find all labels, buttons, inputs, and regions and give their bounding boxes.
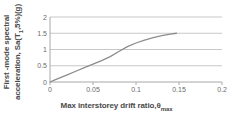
y-axis-title-subscript: 1 — [18, 30, 24, 33]
y-axis-title-line-2-main: acceleration, Sa(T — [13, 33, 22, 100]
y-axis-title: First -mode spectral acceleration, Sa(T1… — [0, 2, 28, 102]
x-axis-tick-label: 0.1 — [131, 85, 141, 94]
y-axis-tick-label: 0.5 — [37, 61, 47, 70]
y-axis-title-line-2: acceleration, Sa(T1,5%)(g) — [12, 4, 27, 100]
y-axis-tick-label: 1 — [43, 45, 47, 54]
y-axis-title-line-1: First -mode spectral — [1, 15, 12, 89]
chart-figure: First -mode spectral acceleration, Sa(T1… — [0, 0, 233, 118]
x-axis-tick-labels: 00.050.10.150.2 — [50, 85, 222, 96]
y-axis-tick-label: 0 — [43, 78, 47, 87]
y-axis-tick-label: 2 — [43, 13, 47, 22]
y-axis-tick-label: 1.5 — [37, 29, 47, 38]
x-axis-title-subscript: max — [161, 106, 173, 112]
gridlines — [50, 17, 222, 66]
x-axis-tick-label: 0.2 — [217, 85, 227, 94]
x-axis-tick-label: 0.05 — [86, 85, 100, 94]
x-axis-tick-label: 0 — [48, 85, 52, 94]
x-axis-title-main: Max interstorey drift ratio,θ — [61, 101, 161, 110]
data-series-line — [50, 33, 176, 82]
plot-canvas — [50, 17, 222, 82]
x-axis-title: Max interstorey drift ratio,θmax — [0, 101, 233, 112]
x-axis-tick-label: 0.15 — [172, 85, 186, 94]
y-axis-tick-labels: 00.511.52 — [28, 12, 47, 87]
y-axis-title-line-2-tail: ,5%)(g) — [13, 4, 22, 30]
plot-area — [50, 17, 222, 82]
